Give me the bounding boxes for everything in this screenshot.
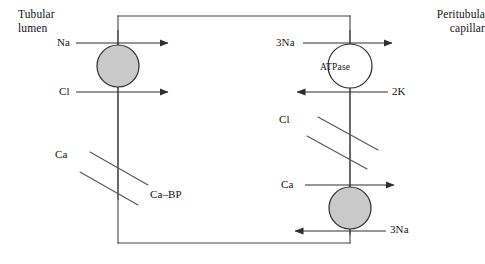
tubular-lumen-label: Tubular lumen <box>18 8 55 35</box>
cl-basolateral-label: Cl <box>279 113 290 126</box>
peritubular-capillary-label: Peritubula capillar <box>400 8 485 35</box>
na-ca-exchanger-circle <box>329 187 371 229</box>
peritubular-capillary-line2: capillar <box>400 22 485 36</box>
tubular-lumen-line1: Tubular <box>18 8 55 22</box>
2k-label: 2K <box>392 85 406 98</box>
ca-bp-channel-lines <box>80 152 148 205</box>
cl-channel-lines <box>307 117 378 169</box>
cl-apical-label: Cl <box>59 85 70 98</box>
na-apical-label: Na <box>57 36 70 49</box>
ca-bp-label: Ca–BP <box>150 188 182 201</box>
ca-basolateral-label: Ca <box>281 178 293 191</box>
ca-apical-label: Ca <box>55 148 67 161</box>
3na-exchanger-label: 3Na <box>390 223 409 236</box>
na-cl-cotransporter-circle <box>97 45 139 87</box>
peritubular-capillary-line1: Peritubula <box>400 8 485 22</box>
3na-atpase-label: 3Na <box>276 36 295 49</box>
tubular-lumen-line2: lumen <box>18 22 55 36</box>
atpase-label: ATPase <box>320 62 350 72</box>
